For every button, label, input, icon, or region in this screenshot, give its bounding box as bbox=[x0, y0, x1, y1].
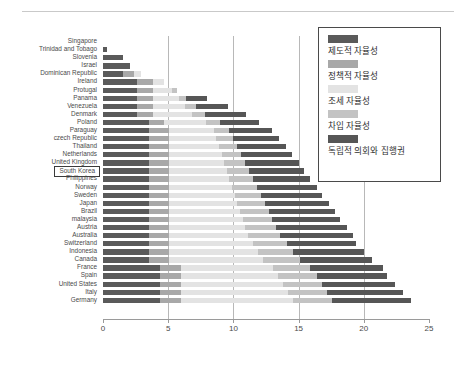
bar-segment bbox=[169, 144, 219, 149]
category-label: Poland bbox=[77, 118, 97, 126]
bar-segment bbox=[253, 176, 310, 181]
bar-row bbox=[103, 289, 429, 297]
category-axis-labels: SingaporeTrinidad and TobagoSloveniaIsra… bbox=[0, 36, 100, 319]
category-label: Philippines bbox=[66, 174, 97, 182]
bar-segment bbox=[258, 249, 293, 254]
bar-segment bbox=[181, 290, 288, 295]
stacked-bar bbox=[103, 120, 259, 125]
bar-row bbox=[103, 240, 429, 248]
category-label: Indonesia bbox=[69, 247, 97, 255]
legend-swatch bbox=[328, 135, 358, 143]
bar-segment bbox=[149, 201, 170, 206]
bar-segment bbox=[137, 104, 153, 109]
legend-swatch bbox=[328, 60, 358, 68]
bar-segment bbox=[103, 168, 149, 173]
bar-segment bbox=[149, 225, 170, 230]
bar-segment bbox=[322, 282, 395, 287]
bar-segment bbox=[103, 209, 149, 214]
legend-item: 정책적 자율성 bbox=[328, 60, 440, 82]
bar-segment bbox=[103, 136, 149, 141]
category-label: Ireland bbox=[77, 77, 97, 85]
bar-segment bbox=[169, 241, 252, 246]
bar-row bbox=[103, 248, 429, 256]
bar-segment bbox=[153, 112, 192, 117]
x-tick-label: 20 bbox=[359, 324, 368, 333]
bar-segment bbox=[103, 144, 149, 149]
bar-segment bbox=[149, 144, 170, 149]
bar-segment bbox=[103, 249, 149, 254]
category-label: Austria bbox=[77, 223, 97, 231]
bar-segment bbox=[263, 257, 300, 262]
bar-segment bbox=[153, 96, 179, 101]
stacked-bar bbox=[103, 160, 299, 165]
stacked-bar bbox=[103, 257, 372, 262]
bar-segment bbox=[169, 233, 247, 238]
category-label: Israel bbox=[81, 61, 97, 69]
bar-segment bbox=[222, 152, 242, 157]
category-label: Sweden bbox=[74, 191, 97, 199]
bar-segment bbox=[169, 185, 232, 190]
bar-segment bbox=[276, 225, 346, 230]
bar-segment bbox=[169, 201, 237, 206]
bar-row bbox=[103, 216, 429, 224]
stacked-bar bbox=[103, 185, 317, 190]
bar-segment bbox=[149, 152, 170, 157]
category-label: malaysia bbox=[72, 215, 97, 223]
bar-segment bbox=[317, 273, 387, 278]
x-tick bbox=[168, 319, 169, 323]
bar-segment bbox=[103, 176, 149, 181]
category-label: Trinidad and Tobago bbox=[39, 45, 97, 53]
bar-segment bbox=[172, 88, 177, 93]
bar-row bbox=[103, 184, 429, 192]
category-label: czech Republic bbox=[54, 134, 97, 142]
bar-segment bbox=[249, 168, 304, 173]
bar-segment bbox=[196, 104, 229, 109]
x-tick bbox=[429, 319, 430, 323]
stacked-bar bbox=[103, 71, 141, 76]
bar-row bbox=[103, 264, 429, 272]
bar-segment bbox=[237, 144, 285, 149]
category-label: Dominican Republic bbox=[40, 69, 97, 77]
bar-segment bbox=[103, 225, 149, 230]
category-label: Singapore bbox=[68, 37, 97, 45]
stacked-bar bbox=[103, 176, 310, 181]
bar-segment bbox=[153, 79, 165, 84]
bar-segment bbox=[192, 112, 205, 117]
x-axis-line bbox=[103, 319, 429, 320]
bar-segment bbox=[265, 201, 329, 206]
bar-segment bbox=[103, 298, 160, 303]
bar-segment bbox=[149, 249, 170, 254]
bar-segment bbox=[103, 112, 137, 117]
legend-label: 제도적 자율성 bbox=[328, 45, 440, 57]
bar-segment bbox=[310, 265, 383, 270]
category-label: Germany bbox=[71, 296, 97, 304]
bar-segment bbox=[103, 257, 149, 262]
category-label: Panama bbox=[73, 94, 97, 102]
bar-segment bbox=[245, 160, 298, 165]
bar-segment bbox=[103, 160, 149, 165]
bar-segment bbox=[103, 152, 149, 157]
bar-segment bbox=[205, 112, 247, 117]
bar-segment bbox=[206, 120, 220, 125]
bar-segment bbox=[241, 152, 292, 157]
bar-segment bbox=[164, 120, 206, 125]
bar-segment bbox=[169, 217, 242, 222]
bar-segment bbox=[243, 217, 273, 222]
bar-segment bbox=[229, 128, 272, 133]
bar-segment bbox=[332, 298, 410, 303]
stacked-bar bbox=[103, 55, 123, 60]
bar-segment bbox=[214, 128, 230, 133]
legend: 제도적 자율성정책적 자율성조세 자율성차입 자율성독립적 의회와 집행권 bbox=[318, 27, 441, 182]
category-label: Denmark bbox=[71, 110, 97, 118]
stacked-bar bbox=[103, 282, 395, 287]
bar-segment bbox=[137, 79, 153, 84]
category-label: Venezuela bbox=[67, 102, 97, 110]
bar-segment bbox=[169, 257, 263, 262]
bar-segment bbox=[103, 273, 160, 278]
bar-segment bbox=[280, 233, 353, 238]
x-tick-label: 0 bbox=[101, 324, 105, 333]
bar-segment bbox=[160, 298, 181, 303]
bar-segment bbox=[103, 128, 149, 133]
bar-segment bbox=[232, 185, 257, 190]
stacked-bar bbox=[103, 298, 411, 303]
